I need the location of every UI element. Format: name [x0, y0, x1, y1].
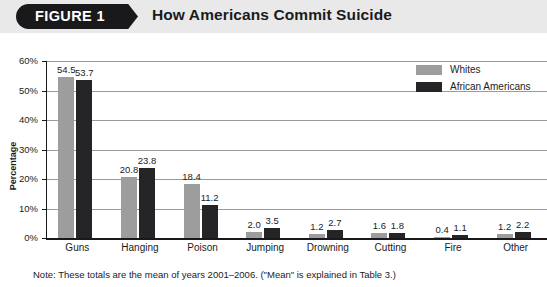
y-tick-label: 50% — [0, 85, 38, 96]
y-tick-mark — [42, 179, 46, 180]
chart-legend: Whites African Americans — [416, 62, 531, 96]
bar-hanging-whites — [121, 177, 137, 238]
figure-note: Note: These totals are the mean of years… — [33, 269, 396, 280]
bar-value-label: 11.2 — [196, 192, 224, 203]
bar-other-whites — [497, 234, 513, 238]
y-tick-label: 30% — [0, 144, 38, 155]
bar-drowning-whites — [309, 234, 325, 238]
y-axis-line — [46, 61, 47, 239]
y-tick-mark — [42, 61, 46, 62]
bar-fire-african-americans — [452, 235, 468, 238]
legend-item-whites: Whites — [416, 62, 531, 77]
bar-jumping-african-americans — [264, 228, 280, 238]
y-tick-mark — [42, 150, 46, 151]
figure-number-label: FIGURE 1 — [16, 4, 124, 29]
figure-header-band: FIGURE 1 How Americans Commit Suicide — [0, 0, 547, 33]
bar-value-label: 1.8 — [383, 220, 411, 231]
bar-value-label: 53.7 — [70, 67, 98, 78]
legend-item-african-americans: African Americans — [416, 79, 531, 94]
bar-value-label: 18.4 — [178, 171, 206, 182]
bar-chart: Percentage 0%10%20%30%40%50%60% 54.553.7… — [0, 33, 547, 265]
x-tick-label-other: Other — [474, 242, 547, 253]
bar-cutting-whites — [371, 233, 387, 238]
bar-value-label: 1.1 — [446, 222, 474, 233]
y-axis-title: Percentage — [8, 126, 18, 206]
bar-fire-whites — [434, 237, 450, 238]
legend-label-african-americans: African Americans — [450, 81, 531, 92]
y-tick-label: 10% — [0, 203, 38, 214]
bar-value-label: 2.7 — [321, 217, 349, 228]
bar-poison-african-americans — [202, 205, 218, 238]
legend-swatch-icon-african-americans — [416, 82, 442, 92]
bar-value-label: 3.5 — [258, 215, 286, 226]
figure-number-badge: FIGURE 1 — [16, 4, 138, 29]
legend-label-whites: Whites — [450, 64, 481, 75]
bar-jumping-whites — [246, 232, 262, 238]
y-tick-label: 60% — [0, 55, 38, 66]
y-tick-label: 40% — [0, 114, 38, 125]
y-tick-label: 20% — [0, 173, 38, 184]
bar-other-african-americans — [515, 232, 531, 238]
gridline — [46, 150, 547, 151]
x-axis-line — [46, 238, 547, 240]
y-tick-mark — [42, 238, 46, 239]
page-title: How Americans Commit Suicide — [152, 6, 392, 24]
legend-swatch-icon-whites — [416, 65, 442, 75]
y-tick-label: 0% — [0, 232, 38, 243]
bar-cutting-african-americans — [389, 233, 405, 238]
y-tick-mark — [42, 120, 46, 121]
bar-guns-african-americans — [76, 80, 92, 238]
gridline — [46, 120, 547, 121]
bar-drowning-african-americans — [327, 230, 343, 238]
bar-guns-whites — [58, 77, 74, 238]
bar-value-label: 2.2 — [509, 219, 537, 230]
y-tick-mark — [42, 91, 46, 92]
y-tick-mark — [42, 209, 46, 210]
bar-value-label: 23.8 — [133, 155, 161, 166]
bar-hanging-african-americans — [139, 168, 155, 238]
